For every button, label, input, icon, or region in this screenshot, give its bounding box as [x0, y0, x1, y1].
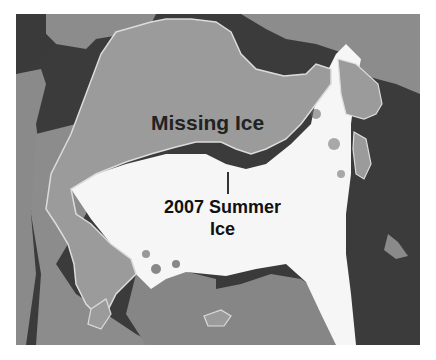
missing-ice-label: Missing Ice	[151, 111, 264, 135]
summer-ice-label-line2: Ice	[164, 218, 281, 240]
label-pointer-line	[227, 172, 229, 194]
summer-ice-label: 2007 Summer Ice	[164, 196, 281, 240]
arctic-ice-map: Missing Ice 2007 Summer Ice	[16, 14, 420, 345]
map-graphic	[16, 14, 420, 345]
summer-ice-label-line1: 2007 Summer	[164, 196, 281, 218]
